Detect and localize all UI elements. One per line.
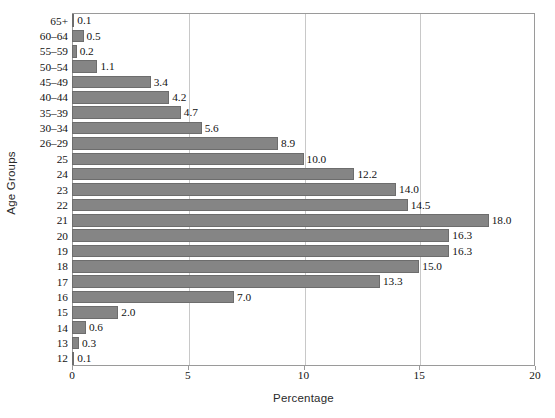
bar-value-label: 2.0	[121, 305, 135, 320]
bar	[72, 153, 304, 166]
bar	[72, 168, 354, 181]
bar-value-label: 8.9	[281, 136, 295, 151]
y-axis-tick-label: 14	[4, 320, 68, 336]
y-axis-tick-label: 65+	[4, 13, 68, 29]
bar	[72, 199, 408, 212]
bar	[72, 60, 97, 73]
bar	[72, 45, 77, 58]
bar	[72, 137, 278, 150]
bar-row: 18.0	[72, 213, 535, 228]
bar-value-label: 7.0	[237, 290, 251, 305]
y-axis-tick-label: 55–59	[4, 43, 68, 59]
bar-value-label: 16.3	[452, 244, 472, 259]
x-axis-tick-mark	[304, 366, 305, 370]
bar-row: 10.0	[72, 151, 535, 166]
bar	[72, 76, 151, 89]
x-axis-tick-mark	[419, 366, 420, 370]
bar-value-label: 14.0	[399, 182, 419, 197]
bar-value-label: 10.0	[307, 152, 327, 167]
y-axis-tick-label: 30–34	[4, 120, 68, 136]
bar-value-label: 0.3	[82, 336, 96, 351]
y-axis-tick-label: 24	[4, 166, 68, 182]
y-axis-tick-label: 12	[4, 350, 68, 366]
y-axis-tick-label: 26–29	[4, 135, 68, 151]
bar-chart: Age Groups 65+60–6455–5950–5445–4940–443…	[0, 0, 555, 418]
bar	[72, 229, 449, 242]
bar	[72, 106, 181, 119]
bar-row: 0.3	[72, 335, 535, 350]
bar-value-label: 12.2	[357, 167, 377, 182]
bar	[72, 306, 118, 319]
bar-row: 0.6	[72, 320, 535, 335]
bar-value-label: 0.5	[87, 29, 101, 44]
x-axis-tick-label: 15	[414, 369, 425, 381]
y-axis-tick-label: 21	[4, 212, 68, 228]
x-axis-tick-label: 5	[185, 369, 191, 381]
bar-row: 0.2	[72, 44, 535, 59]
bar-value-label: 4.7	[184, 105, 198, 120]
bar-value-label: 18.0	[492, 213, 512, 228]
x-axis-tick-labels: 05101520	[72, 369, 535, 387]
y-axis-tick-label: 17	[4, 274, 68, 290]
bar-value-label: 0.2	[80, 44, 94, 59]
bar-value-label: 13.3	[383, 274, 403, 289]
x-axis-tick-mark	[72, 366, 73, 370]
bar	[72, 275, 380, 288]
y-axis-tick-label: 35–39	[4, 105, 68, 121]
y-axis-tick-label: 19	[4, 243, 68, 259]
bar-value-label: 14.5	[411, 198, 431, 213]
bar	[72, 91, 169, 104]
bar-row: 4.7	[72, 105, 535, 120]
bar-row: 14.5	[72, 197, 535, 212]
bar-value-label: 0.6	[89, 320, 103, 335]
x-axis-tick-mark	[188, 366, 189, 370]
bar-value-label: 3.4	[154, 75, 168, 90]
bar-row: 8.9	[72, 136, 535, 151]
bar	[72, 122, 202, 135]
y-axis-tick-label: 50–54	[4, 59, 68, 75]
x-axis-title: Percentage	[72, 392, 535, 404]
bar-row: 16.3	[72, 228, 535, 243]
bar-row: 14.0	[72, 182, 535, 197]
bar	[72, 183, 396, 196]
y-axis-tick-label: 18	[4, 258, 68, 274]
bar-value-label: 16.3	[452, 228, 472, 243]
bar-row: 13.3	[72, 274, 535, 289]
y-axis-tick-label: 23	[4, 182, 68, 198]
y-axis-tick-label: 16	[4, 289, 68, 305]
y-axis-tick-label: 25	[4, 151, 68, 167]
bar-row: 2.0	[72, 305, 535, 320]
bar	[72, 352, 74, 365]
bar-series: 0.10.50.21.13.44.24.75.68.910.012.214.01…	[72, 13, 535, 366]
y-axis-tick-label: 13	[4, 335, 68, 351]
bar	[72, 321, 86, 334]
x-axis-tick-label: 0	[69, 369, 75, 381]
bar	[72, 260, 419, 273]
y-axis-tick-label: 60–64	[4, 28, 68, 44]
y-axis-tick-label: 22	[4, 197, 68, 213]
bar-row: 15.0	[72, 259, 535, 274]
bar-row: 0.1	[72, 13, 535, 28]
x-axis-tick-label: 10	[298, 369, 309, 381]
bar-value-label: 1.1	[100, 59, 114, 74]
bar-value-label: 15.0	[422, 259, 442, 274]
y-axis-tick-label: 20	[4, 228, 68, 244]
bar-row: 12.2	[72, 166, 535, 181]
bar-row: 7.0	[72, 289, 535, 304]
bar	[72, 245, 449, 258]
bar-row: 16.3	[72, 243, 535, 258]
bar	[72, 30, 84, 43]
bar	[72, 337, 79, 350]
bar-row: 0.1	[72, 351, 535, 366]
bar-value-label: 0.1	[77, 351, 91, 366]
bar	[72, 14, 74, 27]
bar-row: 3.4	[72, 74, 535, 89]
bar-row: 0.5	[72, 28, 535, 43]
bar-value-label: 5.6	[205, 121, 219, 136]
y-axis-tick-label: 45–49	[4, 74, 68, 90]
bar-row: 1.1	[72, 59, 535, 74]
y-axis-tick-label: 40–44	[4, 89, 68, 105]
bar-row: 4.2	[72, 90, 535, 105]
bar	[72, 214, 489, 227]
bar-row: 5.6	[72, 120, 535, 135]
